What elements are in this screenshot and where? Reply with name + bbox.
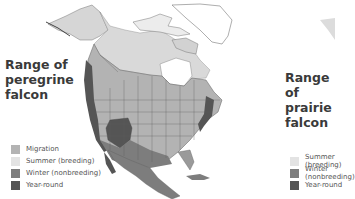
alaska-region: [48, 5, 108, 40]
legend-item-migration: Migration: [11, 143, 101, 155]
title-line: Range of: [5, 57, 74, 72]
year-round-swatch: [11, 181, 20, 190]
prairie-legend: Summer (breeding) Winter (nonbreeding) Y…: [290, 155, 355, 191]
winter-swatch: [290, 169, 299, 178]
peregrine-title: Range of peregrine falcon: [5, 57, 74, 102]
title-line: peregrine: [5, 72, 74, 87]
legend-item-summer: Summer (breeding): [11, 155, 101, 167]
greenland: [172, 4, 232, 44]
winter-swatch: [11, 169, 20, 178]
title-line: Range of: [285, 70, 335, 100]
legend-label: Winter (nonbreeding): [26, 169, 101, 177]
legend-item-winter: Winter (nonbreeding): [290, 167, 355, 179]
summer-swatch: [11, 157, 20, 166]
title-line: falcon: [5, 87, 74, 102]
title-line: prairie: [285, 100, 335, 115]
cuba: [186, 174, 210, 180]
migration-swatch: [11, 145, 20, 154]
legend-item-year-round: Year-round: [11, 179, 101, 191]
peregrine-legend: Migration Summer (breeding) Winter (nonb…: [11, 143, 101, 191]
legend-label: Winter (nonbreeding): [305, 165, 355, 181]
legend-label: Year-round: [305, 181, 342, 189]
prairie-title: Range of prairie falcon: [285, 70, 335, 130]
title-line: falcon: [285, 115, 335, 130]
prairie-map-fragment: [320, 18, 335, 40]
legend-item-winter: Winter (nonbreeding): [11, 167, 101, 179]
legend-label: Summer (breeding): [26, 157, 94, 165]
florida: [178, 150, 194, 170]
legend-label: Migration: [26, 145, 59, 153]
legend-label: Year-round: [26, 181, 63, 189]
year-round-swatch: [290, 181, 299, 190]
summer-swatch: [290, 157, 299, 166]
